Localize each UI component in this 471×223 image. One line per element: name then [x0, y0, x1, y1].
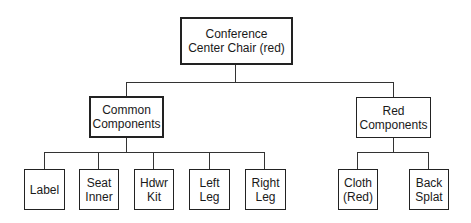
leaf-right-leg-line1: Right	[251, 176, 279, 190]
connector-to-common	[126, 82, 127, 96]
connector-root-stem	[235, 64, 236, 83]
leaf-left-leg: Left Leg	[189, 169, 230, 210]
connector-to-red	[393, 82, 394, 97]
common-components-node: Common Components	[89, 96, 164, 138]
leaf-back-splat-line2: Splat	[415, 190, 442, 204]
connector-to-seat-inner	[98, 152, 99, 169]
red-label-line2: Components	[359, 118, 427, 132]
leaf-label: Label	[24, 169, 65, 210]
leaf-hdwr-kit-line1: Hdwr	[140, 176, 168, 190]
common-label-line2: Components	[92, 117, 160, 131]
leaf-back-splat-line1: Back	[415, 176, 442, 190]
root-label-line1: Conference	[188, 27, 285, 41]
connector-to-label	[44, 152, 45, 169]
connector-to-right-leg	[264, 152, 265, 169]
leaf-hdwr-kit: Hdwr Kit	[134, 169, 174, 210]
leaf-seat-inner-line2: Inner	[85, 190, 112, 204]
common-label-line1: Common	[92, 103, 160, 117]
connector-to-hdwr-kit	[153, 152, 154, 169]
connector-root-bar	[126, 82, 394, 83]
leaf-back-splat: Back Splat	[409, 169, 449, 210]
root-label-line2: Center Chair (red)	[188, 41, 285, 55]
connector-red-stem	[393, 137, 394, 153]
leaf-cloth-red: Cloth (Red)	[338, 169, 378, 210]
leaf-right-leg-line2: Leg	[251, 190, 279, 204]
connector-to-left-leg	[209, 152, 210, 169]
leaf-left-leg-line1: Left	[199, 176, 219, 190]
leaf-cloth-line2: (Red)	[343, 190, 373, 204]
leaf-label-line1: Label	[30, 183, 59, 197]
leaf-hdwr-kit-line2: Kit	[140, 190, 168, 204]
leaf-seat-inner: Seat Inner	[79, 169, 119, 210]
connector-red-bar	[357, 152, 429, 153]
connector-to-cloth	[357, 152, 358, 169]
red-label-line1: Red	[359, 104, 427, 118]
leaf-cloth-line1: Cloth	[343, 176, 373, 190]
connector-common-stem	[126, 137, 127, 153]
red-components-node: Red Components	[356, 97, 431, 138]
leaf-left-leg-line2: Leg	[199, 190, 219, 204]
connector-common-bar	[44, 152, 265, 153]
connector-to-back-splat	[428, 152, 429, 169]
leaf-seat-inner-line1: Seat	[85, 176, 112, 190]
leaf-right-leg: Right Leg	[245, 169, 286, 210]
root-node: Conference Center Chair (red)	[180, 17, 293, 65]
